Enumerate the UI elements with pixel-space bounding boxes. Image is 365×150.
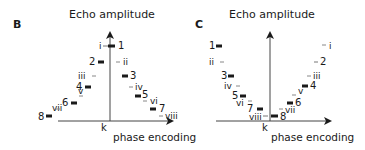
svg-text:vi: vi	[236, 98, 244, 108]
svg-text:3: 3	[130, 70, 136, 81]
svg-text:ii: ii	[123, 57, 128, 67]
svg-text:i: i	[329, 41, 332, 51]
svg-text:vii: vii	[285, 105, 295, 115]
panel-b: B Echo amplitude k phase encoding 1 2 3 …	[13, 8, 196, 143]
svg-text:3: 3	[221, 70, 227, 81]
x-axis-label-b: phase encoding	[113, 131, 196, 143]
svg-text:8: 8	[38, 111, 44, 122]
svg-text:iv: iv	[135, 82, 144, 92]
svg-text:vii: vii	[52, 103, 62, 113]
svg-text:i: i	[99, 41, 102, 51]
panel-letter-c: C	[195, 18, 203, 31]
y-axis-label-c: Echo amplitude	[229, 8, 315, 21]
k-label-b: k	[101, 122, 107, 133]
svg-text:viii: viii	[165, 111, 178, 121]
k-label-c: k	[262, 122, 268, 133]
svg-text:v: v	[298, 86, 304, 96]
svg-text:vi: vi	[150, 96, 158, 106]
svg-text:viii: viii	[249, 112, 262, 122]
echo-amplitude-diagram: B Echo amplitude k phase encoding 1 2 3 …	[0, 0, 365, 150]
svg-text:2: 2	[89, 56, 95, 67]
svg-text:v: v	[78, 86, 84, 96]
svg-text:6: 6	[62, 97, 68, 108]
svg-text:5: 5	[142, 89, 148, 100]
svg-text:iii: iii	[313, 71, 321, 81]
panel-letter-b: B	[13, 18, 21, 31]
y-axis-label-b: Echo amplitude	[69, 8, 155, 21]
svg-text:1: 1	[118, 40, 124, 51]
svg-text:6: 6	[295, 97, 301, 108]
x-axis-label-c: phase encoding	[271, 131, 354, 143]
svg-text:ii: ii	[209, 57, 214, 67]
svg-text:iii: iii	[78, 71, 86, 81]
panel-c: C Echo amplitude k phase encoding 1 2 3 …	[195, 8, 354, 143]
svg-text:1: 1	[209, 40, 215, 51]
svg-text:4: 4	[310, 80, 316, 91]
svg-text:iv: iv	[224, 81, 233, 91]
svg-text:2: 2	[320, 56, 326, 67]
